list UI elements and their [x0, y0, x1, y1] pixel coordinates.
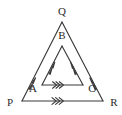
inner-side-ab [42, 46, 62, 85]
vertex-label-p: P [7, 96, 13, 108]
nested-triangles-svg: Q B A C P R [0, 0, 122, 115]
vertex-label-c: C [88, 82, 95, 94]
vertex-label-q: Q [58, 5, 66, 17]
geometry-figure: Q B A C P R [0, 0, 122, 115]
outer-side-qr [62, 22, 103, 101]
vertex-label-r: R [110, 96, 118, 108]
vertex-label-a: A [29, 82, 37, 94]
vertex-labels: Q B A C P R [7, 5, 118, 108]
arrow-marks-inner-ab [49, 62, 55, 75]
vertex-label-b: B [58, 29, 65, 41]
arrowhead-icon [71, 62, 74, 68]
arrow-marks-inner-cb [71, 62, 77, 74]
outer-side-pq [22, 22, 62, 101]
